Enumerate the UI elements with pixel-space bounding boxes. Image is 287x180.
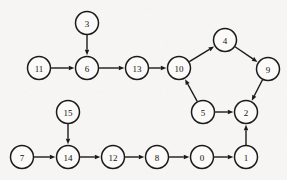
edge-7-to-14 bbox=[34, 155, 55, 159]
edge-5-to-10 bbox=[185, 79, 197, 101]
arrow-head-icon bbox=[184, 155, 190, 159]
graph-node-10[interactable]: 10 bbox=[168, 57, 191, 80]
arrow-head-icon bbox=[66, 139, 70, 145]
arrow-head-icon bbox=[85, 50, 89, 56]
edge-1-to-2 bbox=[244, 125, 248, 145]
edge-5-to-2 bbox=[215, 110, 233, 114]
graph-node-12[interactable]: 12 bbox=[102, 146, 125, 169]
graph-node-11[interactable]: 11 bbox=[28, 57, 51, 80]
node-label-0: 0 bbox=[200, 153, 205, 163]
edge-9-to-2 bbox=[252, 80, 263, 101]
edge-8-to-0 bbox=[169, 155, 189, 159]
node-label-11: 11 bbox=[35, 64, 44, 74]
arrow-head-icon bbox=[185, 79, 190, 85]
edge-15-to-14 bbox=[66, 124, 70, 144]
graph-node-3[interactable]: 3 bbox=[76, 12, 99, 35]
arrow-head-icon bbox=[50, 155, 56, 159]
edge-11-to-6 bbox=[51, 66, 74, 70]
arrow-head-icon bbox=[208, 47, 214, 52]
graph-node-5[interactable]: 5 bbox=[192, 101, 215, 124]
node-label-5: 5 bbox=[201, 108, 206, 118]
graph-node-2[interactable]: 2 bbox=[235, 101, 258, 124]
graph-node-9[interactable]: 9 bbox=[257, 58, 280, 81]
node-label-9: 9 bbox=[266, 65, 271, 75]
node-label-10: 10 bbox=[175, 64, 185, 74]
edge-14-to-12 bbox=[80, 155, 100, 159]
graph-node-14[interactable]: 14 bbox=[57, 146, 80, 169]
node-label-2: 2 bbox=[244, 108, 249, 118]
node-label-12: 12 bbox=[109, 153, 118, 163]
node-label-14: 14 bbox=[64, 153, 74, 163]
arrow-head-icon bbox=[244, 125, 248, 131]
edge-3-to-6 bbox=[85, 35, 89, 55]
node-label-7: 7 bbox=[20, 153, 25, 163]
edge-13-to-10 bbox=[149, 66, 166, 70]
arrow-head-icon bbox=[161, 66, 167, 70]
node-label-6: 6 bbox=[85, 64, 90, 74]
arrow-head-icon bbox=[139, 155, 145, 159]
edge-6-to-13 bbox=[99, 66, 124, 70]
node-label-4: 4 bbox=[223, 36, 228, 46]
arrow-head-icon bbox=[95, 155, 101, 159]
directed-graph-diagram: 3116131049521571412801 bbox=[0, 0, 287, 180]
arrow-head-icon bbox=[228, 155, 234, 159]
graph-node-8[interactable]: 8 bbox=[146, 146, 169, 169]
graph-node-4[interactable]: 4 bbox=[214, 29, 237, 52]
edge-0-to-1 bbox=[214, 155, 233, 159]
node-label-13: 13 bbox=[133, 64, 143, 74]
node-label-15: 15 bbox=[64, 108, 74, 118]
edge-4-to-9 bbox=[235, 47, 257, 62]
nodes-layer: 3116131049521571412801 bbox=[11, 12, 280, 169]
node-label-3: 3 bbox=[85, 19, 90, 29]
edge-10-to-4 bbox=[189, 47, 214, 62]
edges-layer bbox=[34, 35, 262, 159]
graph-node-15[interactable]: 15 bbox=[57, 101, 80, 124]
arrow-head-icon bbox=[252, 95, 256, 101]
arrow-head-icon bbox=[69, 66, 75, 70]
graph-node-1[interactable]: 1 bbox=[235, 146, 258, 169]
graph-node-7[interactable]: 7 bbox=[11, 146, 34, 169]
graph-node-6[interactable]: 6 bbox=[76, 57, 99, 80]
arrow-head-icon bbox=[119, 66, 125, 70]
graph-node-13[interactable]: 13 bbox=[126, 57, 149, 80]
arrow-head-icon bbox=[228, 110, 234, 114]
node-label-1: 1 bbox=[244, 153, 249, 163]
node-label-8: 8 bbox=[155, 153, 160, 163]
graph-node-0[interactable]: 0 bbox=[191, 146, 214, 169]
edge-12-to-8 bbox=[125, 155, 144, 159]
